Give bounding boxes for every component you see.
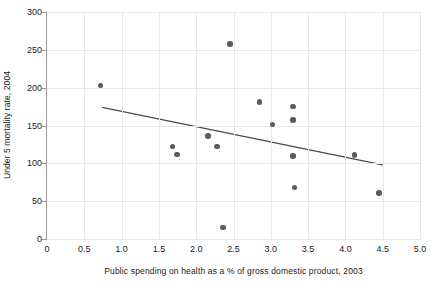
x-tick-label: 3.0: [251, 245, 291, 254]
y-tick-mark: [42, 239, 46, 240]
y-tick-mark: [42, 126, 46, 127]
x-tick-label: 1.5: [139, 245, 179, 254]
y-tick-mark: [42, 12, 46, 13]
x-tick-label: 2.5: [214, 245, 254, 254]
y-tick-mark: [42, 163, 46, 164]
y-tick-mark: [42, 50, 46, 51]
x-tick-label: 5.0: [400, 245, 431, 254]
x-tick-label: 1.0: [102, 245, 142, 254]
x-tick-label: 2.0: [176, 245, 216, 254]
x-tick-label: 0.5: [64, 245, 104, 254]
y-tick-mark: [42, 201, 46, 202]
x-axis-title: Public spending on health as a % of gros…: [47, 266, 420, 276]
x-tick-label: 4.5: [363, 245, 403, 254]
x-tick-label: 0: [27, 245, 67, 254]
x-tick-label: 4.0: [325, 245, 365, 254]
x-tick-label: 3.5: [288, 245, 328, 254]
y-tick-mark: [42, 88, 46, 89]
